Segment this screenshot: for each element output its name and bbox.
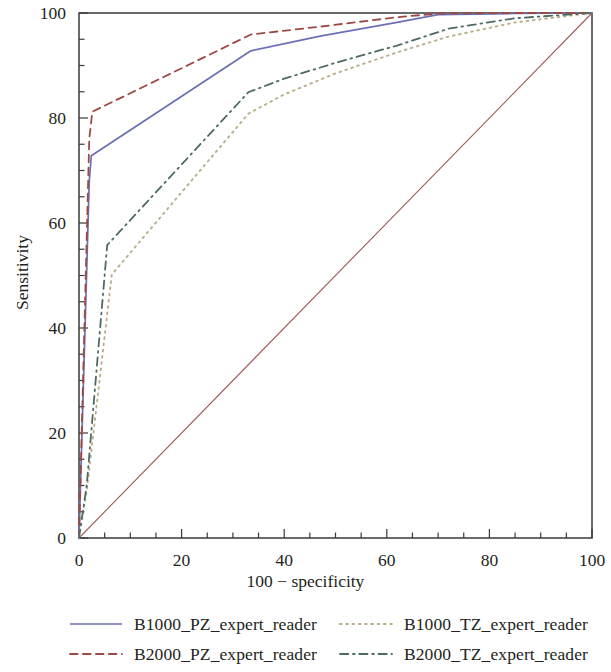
- legend-grid: B1000_PZ_expert_readerB1000_TZ_expert_re…: [68, 612, 608, 666]
- legend-entry-b1000_tz_expert_reader[interactable]: B1000_TZ_expert_reader: [338, 612, 608, 636]
- reference-diagonal-line: [79, 13, 592, 538]
- legend-line-swatch-solid: [68, 617, 124, 631]
- legend-label: B2000_TZ_expert_reader: [404, 644, 588, 665]
- x-tick-label-40: 40: [275, 550, 293, 571]
- legend-line-swatch-dotted: [338, 617, 394, 631]
- x-tick-label-0: 0: [75, 550, 84, 571]
- y-tick-label-0: 0: [8, 528, 66, 549]
- x-tick-label-80: 80: [481, 550, 499, 571]
- legend-label: B2000_PZ_expert_reader: [134, 644, 317, 665]
- x-tick-label-20: 20: [173, 550, 191, 571]
- x-axis-title: 100 − specificity: [0, 571, 611, 592]
- legend-entry-b1000_pz_expert_reader[interactable]: B1000_PZ_expert_reader: [68, 612, 338, 636]
- legend-label: B1000_TZ_expert_reader: [404, 614, 588, 635]
- x-tick-label-100: 100: [579, 550, 605, 571]
- x-tick-label-60: 60: [378, 550, 396, 571]
- legend-label: B1000_PZ_expert_reader: [134, 614, 317, 635]
- y-tick-label-20: 20: [8, 423, 66, 444]
- plot-area-container: 100 − specificity Sensitivity 0204060801…: [0, 0, 611, 605]
- y-tick-label-60: 60: [8, 213, 66, 234]
- y-axis-title: Sensitivity: [12, 163, 33, 383]
- y-tick-label-40: 40: [8, 318, 66, 339]
- roc-chart-figure: 100 − specificity Sensitivity 0204060801…: [0, 0, 611, 672]
- legend-entry-b2000_tz_expert_reader[interactable]: B2000_TZ_expert_reader: [338, 642, 608, 666]
- y-tick-label-100: 100: [8, 3, 66, 24]
- legend-entry-b2000_pz_expert_reader[interactable]: B2000_PZ_expert_reader: [68, 642, 338, 666]
- legend-line-swatch-dashed: [68, 647, 124, 661]
- roc-plot-svg: [0, 0, 611, 605]
- chart-legend: B1000_PZ_expert_readerB1000_TZ_expert_re…: [0, 612, 611, 672]
- legend-line-swatch-dashdot: [338, 647, 394, 661]
- y-tick-label-80: 80: [8, 108, 66, 129]
